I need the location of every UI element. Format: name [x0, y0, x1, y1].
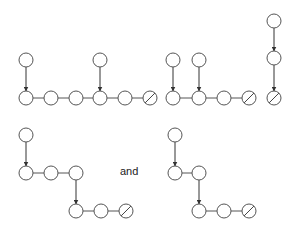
- node-circle: [168, 128, 182, 142]
- figure-staircase-right: [168, 128, 256, 218]
- node-circle: [19, 128, 33, 142]
- node-circle: [267, 51, 281, 65]
- node-circle: [217, 204, 231, 218]
- node-circle: [69, 91, 83, 105]
- node-circle: [192, 204, 206, 218]
- and-connector-label: and: [120, 165, 138, 177]
- node-circle: [19, 166, 33, 180]
- node-circle: [93, 91, 107, 105]
- node-circle: [93, 53, 107, 67]
- node-circle: [192, 53, 206, 67]
- figure-chain-two-branches: [19, 53, 157, 105]
- node-circle: [69, 166, 83, 180]
- diagram-canvas: [0, 0, 290, 231]
- node-circle: [168, 166, 182, 180]
- node-circle: [94, 204, 108, 218]
- node-circle: [44, 166, 58, 180]
- node-circle: [69, 204, 83, 218]
- node-circle: [166, 53, 180, 67]
- figure-chain-adjacent-branches: [166, 53, 256, 105]
- node-circle: [192, 166, 206, 180]
- node-circle: [44, 91, 58, 105]
- node-circle: [267, 14, 281, 28]
- node-circle: [192, 91, 206, 105]
- node-circle: [217, 91, 231, 105]
- node-circle: [118, 91, 132, 105]
- node-circle: [19, 91, 33, 105]
- node-circle: [19, 53, 33, 67]
- node-circle: [166, 91, 180, 105]
- figure-staircase-left: [19, 128, 133, 218]
- figure-vertical-chain: [267, 14, 281, 105]
